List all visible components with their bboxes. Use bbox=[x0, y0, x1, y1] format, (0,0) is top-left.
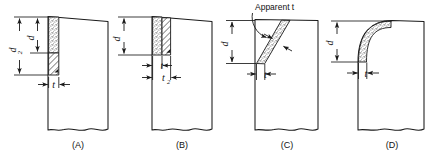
engineering-figure: d 2 d t (A) d t t 2 (B) Apparent t d t (… bbox=[0, 0, 434, 161]
dim-label-d-d: d bbox=[324, 40, 335, 46]
dim-label-t2-b: t bbox=[162, 72, 165, 83]
panel-a bbox=[14, 17, 108, 131]
figure-canvas: d 2 d t (A) d t t 2 (B) Apparent t d t (… bbox=[0, 0, 434, 161]
panel-label-a: (A) bbox=[72, 140, 84, 150]
panel-d bbox=[331, 21, 424, 131]
panel-label-b: (B) bbox=[176, 140, 188, 150]
dim-label-d-b: d bbox=[111, 36, 122, 42]
dim-label-t-c: t bbox=[264, 69, 267, 80]
dim-label-t-a: t bbox=[52, 79, 55, 90]
panel-c bbox=[226, 13, 318, 130]
annotation-apparent-t: Apparent t bbox=[255, 2, 295, 12]
panel-label-c: (C) bbox=[281, 140, 294, 150]
stipple-band-a bbox=[49, 17, 59, 53]
hatch-band-b bbox=[162, 18, 171, 55]
panel-b bbox=[118, 17, 212, 131]
dim-label-t-d: t bbox=[365, 68, 368, 79]
dim-label-t-b: t bbox=[160, 60, 163, 71]
dim-label-d-a: d bbox=[25, 35, 36, 41]
panel-label-d: (D) bbox=[386, 140, 399, 150]
stipple-band-b bbox=[153, 17, 162, 55]
dim-label-d-c: d bbox=[219, 41, 230, 47]
